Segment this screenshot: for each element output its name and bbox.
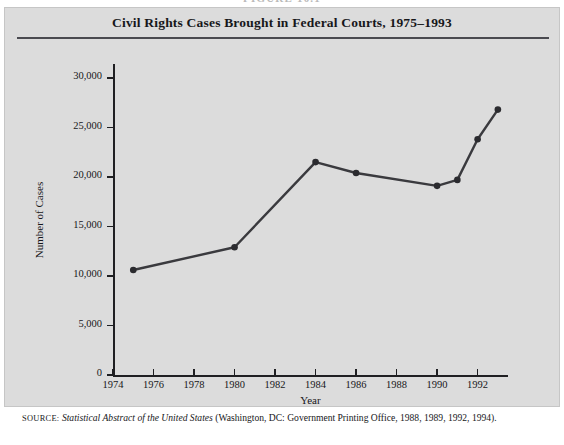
series-plot <box>5 8 561 408</box>
series-data-point <box>495 106 502 113</box>
plot-area: 05,00010,00015,00020,00025,00030,000 197… <box>5 8 561 408</box>
source-note: SOURCE: Statistical Abstract of the Unit… <box>22 412 547 425</box>
series-data-point <box>353 170 360 177</box>
figure-number-label: FIGURE 10.1 <box>0 0 564 4</box>
series-data-point <box>231 244 238 251</box>
series-data-point <box>434 183 441 190</box>
source-publication-details: (Washington, DC: Government Printing Off… <box>213 412 497 423</box>
series-data-point <box>454 177 461 184</box>
figure-number-strip: FIGURE 10.1 <box>0 0 564 7</box>
series-data-point <box>474 136 481 143</box>
series-markers <box>130 106 501 273</box>
series-data-point <box>130 267 137 274</box>
series-data-point <box>312 159 319 166</box>
figure-panel: Civil Rights Cases Brought in Federal Co… <box>4 7 560 407</box>
source-label: SOURCE: <box>22 414 59 423</box>
source-publication-title: Statistical Abstract of the United State… <box>62 412 213 423</box>
series-line-path <box>133 110 498 270</box>
